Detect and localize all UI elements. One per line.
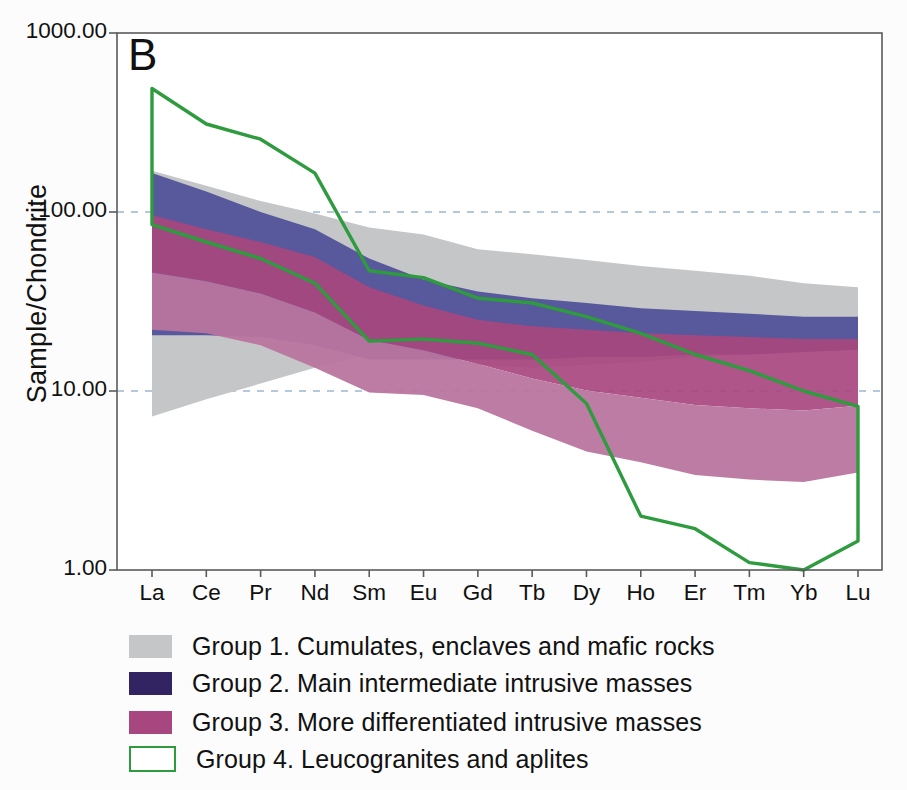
x-tick-label: Dy — [560, 580, 612, 606]
legend-swatch-group-3 — [129, 711, 172, 734]
x-tick-label: Tb — [506, 580, 558, 606]
panel-letter: B — [128, 33, 157, 77]
legend: Group 1. Cumulates, enclaves and mafic r… — [129, 630, 889, 778]
y-tick-label: 100.00 — [3, 197, 107, 223]
x-tick-label: Lu — [832, 580, 884, 606]
x-tick-label: Er — [669, 580, 721, 606]
figure-root: B Sample/Chondrite 1000.00100.0010.001.0… — [0, 0, 907, 790]
legend-swatch-group-4 — [129, 746, 176, 772]
legend-item-group-4[interactable]: Group 4. Leucogranites and aplites — [129, 740, 889, 778]
legend-label-group-3: Group 3. More differentiated intrusive m… — [192, 708, 702, 737]
legend-item-group-3[interactable]: Group 3. More differentiated intrusive m… — [129, 704, 889, 740]
y-tick-label: 1.00 — [3, 555, 107, 581]
x-tick-label: Eu — [398, 580, 450, 606]
x-tick-label: Tm — [723, 580, 775, 606]
x-tick-label: Ho — [615, 580, 667, 606]
legend-swatch-group-2 — [129, 672, 172, 695]
x-tick-label: La — [126, 580, 178, 606]
legend-label-group-2: Group 2. Main intermediate intrusive mas… — [192, 669, 692, 698]
x-tick-label: Ce — [180, 580, 232, 606]
legend-swatch-group-1 — [129, 635, 172, 658]
x-tick-label: Nd — [289, 580, 341, 606]
legend-label-group-1: Group 1. Cumulates, enclaves and mafic r… — [192, 632, 715, 661]
legend-item-group-2[interactable]: Group 2. Main intermediate intrusive mas… — [129, 663, 889, 704]
y-tick-label: 10.00 — [3, 376, 107, 402]
legend-label-group-4: Group 4. Leucogranites and aplites — [196, 745, 589, 774]
x-tick-label: Yb — [778, 580, 830, 606]
x-tick-label: Pr — [235, 580, 287, 606]
x-tick-label: Gd — [452, 580, 504, 606]
legend-item-group-1[interactable]: Group 1. Cumulates, enclaves and mafic r… — [129, 630, 889, 663]
y-tick-label: 1000.00 — [3, 18, 107, 44]
x-tick-label: Sm — [343, 580, 395, 606]
